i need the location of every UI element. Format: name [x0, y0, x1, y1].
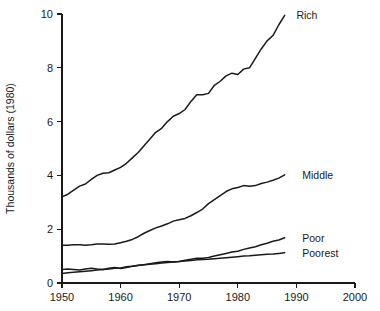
y-tick-label: 6 — [47, 116, 53, 128]
y-tick-label: 8 — [47, 62, 53, 74]
y-tick-label: 0 — [47, 277, 53, 289]
series-label-middle: Middle — [302, 169, 333, 181]
x-tick-label: 2000 — [343, 291, 367, 303]
series-line-poor — [62, 238, 285, 270]
series-label-poorest: Poorest — [302, 247, 338, 259]
x-axis: 195019601970198019902000 — [50, 283, 367, 303]
series-label-poor: Poor — [302, 232, 325, 244]
y-tick-label: 2 — [47, 223, 53, 235]
y-tick-label: 10 — [41, 8, 53, 20]
x-tick-label: 1950 — [50, 291, 74, 303]
x-tick-label: 1970 — [167, 291, 191, 303]
series-line-rich — [62, 15, 285, 197]
x-tick-label: 1980 — [226, 291, 250, 303]
y-tick-label: 4 — [47, 169, 53, 181]
series-labels: RichMiddlePoorPoorest — [296, 9, 338, 259]
series-line-poorest — [62, 253, 285, 274]
y-axis: 0246810 — [41, 8, 62, 289]
series-line-middle — [62, 175, 285, 245]
x-tick-label: 1990 — [284, 291, 308, 303]
line-chart: 0246810 195019601970198019902000 RichMid… — [0, 0, 380, 311]
x-tick-label: 1960 — [108, 291, 132, 303]
y-axis-title: Thousands of dollars (1980) — [4, 83, 16, 214]
chart-container: 0246810 195019601970198019902000 RichMid… — [0, 0, 380, 311]
y-axis-title-label: Thousands of dollars (1980) — [4, 83, 16, 214]
series-label-rich: Rich — [296, 9, 317, 21]
series-lines — [62, 15, 285, 273]
